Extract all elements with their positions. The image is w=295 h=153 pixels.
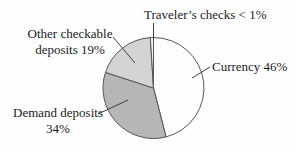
label-travelers-checks: Traveler’s checks < 1%	[144, 7, 267, 23]
label-other-checkable-deposits: Other checkable deposits 19%	[18, 26, 122, 58]
label-currency: Currency 46%	[212, 59, 287, 75]
label-demand-deposits: Demand deposits 34%	[6, 105, 110, 137]
label-other-checkable-line1: Other checkable	[18, 26, 122, 42]
label-other-checkable-line2: deposits 19%	[18, 42, 122, 58]
pie-chart-figure: Traveler’s checks < 1% Other checkable d…	[0, 0, 295, 153]
label-demand-line2: 34%	[6, 121, 110, 137]
label-demand-line1: Demand deposits	[6, 105, 110, 121]
